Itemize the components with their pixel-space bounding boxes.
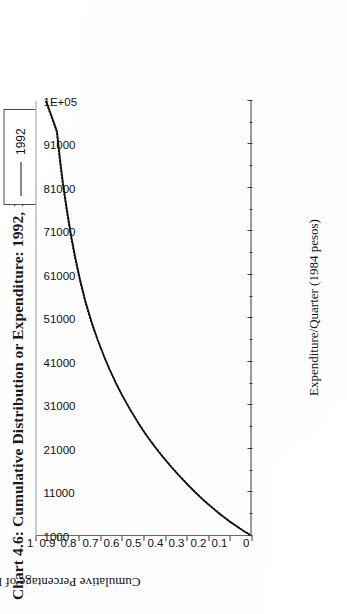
x-tick-label: 1E+05 [43,96,77,108]
x-tick-minor [249,165,252,166]
x-axis-title: Expenditure/Quarter (1984 pesos) [305,219,321,396]
x-tick [247,231,252,232]
y-tick [208,536,209,541]
y-tick [100,536,101,541]
x-tick-minor [249,513,252,514]
y-tick [186,536,187,541]
y-tick [229,536,230,541]
x-tick [247,448,252,449]
x-tick-minor [249,339,252,340]
y-tick [78,536,79,541]
x-tick-label: 81000 [43,183,75,195]
x-tick-label: 61000 [43,270,75,282]
x-tick-label: 21000 [43,444,75,456]
series-line-1992 [46,101,250,535]
x-tick-label: 11000 [43,488,74,500]
y-tick-label: 0.2 [190,537,206,549]
y-tick-label: 0.6 [103,537,119,549]
y-tick-label: 0.1 [211,537,227,549]
y-tick [35,536,36,541]
x-tick-minor [249,209,252,210]
x-tick-minor [249,426,252,427]
x-tick-minor [249,470,252,471]
chart-page: Chart 4.6: Cumulative Distribution or Ex… [0,0,347,614]
x-tick-label: 71000 [43,227,75,239]
x-tick [247,187,252,188]
x-tick-minor [249,383,252,384]
y-tick-label: 0.9 [39,537,55,549]
y-tick-label: 0.8 [60,537,76,549]
x-tick [247,318,252,319]
y-tick-label: 0.7 [82,537,98,549]
plot-wrapper: 1000110002100031000410005100061000710008… [35,101,251,536]
x-tick [247,274,252,275]
y-tick-label: 0.3 [168,537,184,549]
x-tick [247,100,252,101]
y-tick [251,536,252,541]
x-tick [247,492,252,493]
page-title: Chart 4.6: Cumulative Distribution or Ex… [8,176,26,600]
y-tick [121,536,122,541]
y-tick-label: 0.4 [147,537,163,549]
legend-item: 1992 [13,118,27,196]
y-tick [57,536,58,541]
x-tick [247,405,252,406]
x-tick-label: 41000 [43,357,75,369]
x-tick-minor [249,252,252,253]
y-tick-label: 1 [27,537,33,549]
x-tick-label: 91000 [43,140,75,152]
x-tick-minor [249,296,252,297]
series-line-1994 [45,101,250,535]
x-tick [247,361,252,362]
x-tick-label: 31000 [43,401,75,413]
y-tick-label: 0.5 [125,537,141,549]
x-tick-minor [249,122,252,123]
y-tick-label: 0 [243,537,249,549]
legend-item-label: 1992 [13,128,27,155]
y-tick [143,536,144,541]
legend-line-swatch-solid [20,162,21,196]
x-tick-label: 51000 [43,314,75,326]
y-axis-title: Cumulative Percentage of Population [0,574,140,590]
y-tick [165,536,166,541]
x-tick [247,144,252,145]
